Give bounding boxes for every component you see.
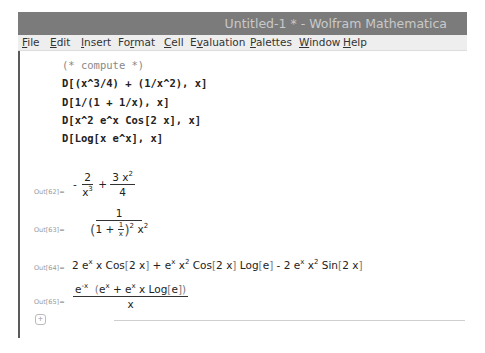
minus-sign: -	[73, 178, 77, 190]
plus-sign: +	[153, 259, 162, 271]
fraction: 3 x2 4	[110, 170, 135, 199]
plus-sign: +	[113, 283, 122, 295]
cell-insertion-line[interactable]	[114, 320, 465, 321]
input-line-1[interactable]: D[(x^3/4) + (1/x^2), x]	[62, 77, 207, 89]
exponent: -x	[81, 282, 88, 290]
plus-sign: +	[98, 178, 107, 190]
output-label-62: Out[62]=	[34, 188, 65, 196]
input-line-2[interactable]: D[1/(1 + 1/x), x]	[62, 96, 169, 108]
input-line-3[interactable]: D[x^2 e^x Cos[2 x], x]	[62, 114, 201, 126]
exponent: 2	[144, 222, 148, 230]
menu-file[interactable]: File	[22, 36, 40, 48]
output-64[interactable]: 2 ex x Cos[2 x] + ex x2 Cos[2 x] Log[e] …	[72, 259, 363, 271]
denominator: x	[127, 298, 133, 310]
output-65[interactable]: e-x (ex + ex x Log[e]) x	[73, 282, 188, 311]
menu-window[interactable]: Window	[299, 36, 340, 48]
menu-format[interactable]: Format	[118, 36, 155, 48]
fraction: 1 (1 + 1x)2 x2	[88, 206, 150, 238]
exponent: 3	[88, 185, 92, 193]
coef: 2	[284, 259, 291, 271]
window-title: Untitled-1 * - Wolfram Mathematica	[225, 16, 447, 31]
output-63[interactable]: 1 (1 + 1x)2 x2	[88, 206, 150, 238]
variable: x	[139, 283, 145, 295]
variable: x	[96, 259, 102, 271]
menu-cell[interactable]: Cell	[164, 36, 184, 48]
plus-sign: +	[106, 223, 115, 235]
numerator: 3	[112, 171, 119, 183]
numerator: 1	[116, 207, 123, 219]
exponent: 2	[129, 170, 133, 178]
fraction: e-x (ex + ex x Log[e]) x	[73, 282, 188, 311]
exponent: x	[132, 282, 136, 290]
log-fn: Log	[149, 283, 168, 295]
one: 1	[95, 223, 102, 235]
log-fn: Log	[240, 259, 259, 271]
cell-bracket[interactable]	[18, 51, 20, 338]
minus-sign: -	[277, 259, 281, 271]
output-label-65: Out[65]=	[34, 298, 65, 306]
arg: 2	[342, 259, 349, 271]
input-line-4[interactable]: D[Log[x e^x], x]	[62, 132, 163, 144]
menu-palettes[interactable]: Palettes	[250, 36, 292, 48]
exponent: 2	[130, 222, 134, 230]
sin-fn: Sin	[322, 259, 338, 271]
exponent: x	[89, 258, 93, 266]
denominator: 4	[119, 186, 126, 198]
mathematica-window: Untitled-1 * - Wolfram Mathematica File …	[18, 12, 467, 342]
output-label-63: Out[63]=	[34, 226, 65, 234]
exponent: x	[300, 258, 304, 266]
menu-evaluation[interactable]: Evaluation	[190, 36, 245, 48]
menu-insert[interactable]: Insert	[81, 36, 111, 48]
add-cell-icon[interactable]: +	[35, 314, 46, 325]
exponent: x	[171, 258, 175, 266]
bracket: ]	[232, 259, 236, 271]
exponent: 2	[314, 258, 318, 266]
exponent: x	[105, 282, 109, 290]
arg: 2	[129, 259, 136, 271]
output-label-64: Out[64]=	[34, 264, 65, 272]
menu-edit[interactable]: Edit	[50, 36, 70, 48]
menu-bar: File Edit Insert Format Cell Evaluation …	[18, 35, 467, 51]
fraction: 2 x3	[80, 170, 95, 199]
title-bar[interactable]: Untitled-1 * - Wolfram Mathematica	[18, 12, 467, 35]
numerator: 2	[84, 171, 91, 183]
cos-fn: Cos	[106, 259, 125, 271]
menu-help[interactable]: Help	[343, 36, 367, 48]
bracket: ]	[269, 259, 273, 271]
output-62[interactable]: - 2 x3 + 3 x2 4	[73, 170, 135, 199]
input-comment[interactable]: (* compute *)	[62, 59, 144, 71]
denominator: x	[119, 230, 123, 238]
bracket: ]	[145, 259, 149, 271]
cos-fn: Cos	[193, 259, 212, 271]
arg: 2	[216, 259, 223, 271]
coef: 2	[72, 259, 79, 271]
right-paren: )	[182, 283, 186, 295]
exponent: 2	[185, 258, 189, 266]
bracket: ]	[358, 259, 362, 271]
